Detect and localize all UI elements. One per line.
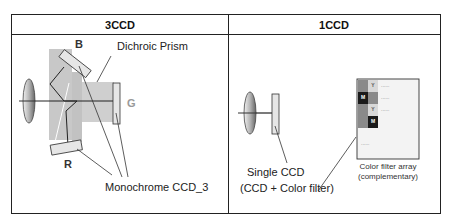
filter-cell xyxy=(358,116,368,128)
label-color-filter-array: Color filter array (complementary) xyxy=(350,162,426,182)
filter-cell-label: M xyxy=(371,118,375,124)
filter-ellipsis: ...... xyxy=(381,94,389,100)
label-monochrome-ccd: Monochrome CCD_3 xyxy=(105,181,208,193)
label-filter-line1: Color filter array xyxy=(350,162,426,172)
label-red: R xyxy=(64,158,72,170)
filter-cell xyxy=(368,92,378,104)
label-single-ccd: Single CCD xyxy=(247,166,304,178)
label-filter-line2: (complementary) xyxy=(350,172,426,182)
three-ccd-diagram xyxy=(19,49,128,177)
filter-cell-label: M xyxy=(361,94,365,100)
ccd-red xyxy=(50,140,82,155)
label-green: G xyxy=(127,97,136,109)
diagram-artwork: YMYM ...... ...... ...... ...... xyxy=(0,0,451,224)
filter-ellipsis: ...... xyxy=(381,82,389,88)
filter-cells: YMYM xyxy=(358,80,378,128)
filter-ellipsis: ...... xyxy=(381,106,389,112)
label-blue: B xyxy=(75,38,83,50)
filter-cell xyxy=(358,104,368,116)
filter-ellipsis: ...... xyxy=(361,140,369,146)
label-ccd-color-filter: (CCD + Color filter) xyxy=(240,182,334,194)
label-dichroic-prism: Dichroic Prism xyxy=(117,40,188,52)
ccd-green xyxy=(113,83,120,124)
filter-cell xyxy=(358,80,368,92)
